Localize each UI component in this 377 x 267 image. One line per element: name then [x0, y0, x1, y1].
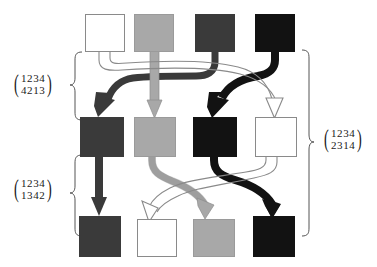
permutation-bottom-row: 4213 — [21, 85, 45, 97]
node-row3-col2[interactable] — [137, 219, 177, 257]
node-row3-col4[interactable] — [253, 216, 295, 257]
arrow-mid2-to-bot3 — [152, 150, 214, 219]
right-paren: ) — [357, 129, 362, 150]
node-row2-col2[interactable] — [134, 117, 176, 157]
brace-right — [302, 50, 314, 236]
permutation-top-row: 1234 — [21, 73, 45, 85]
node-row2-col3[interactable] — [193, 117, 237, 157]
permutation-label-top-left: ( 1234 4213 ) — [12, 73, 54, 96]
permutation-rows: 1234 4213 — [21, 73, 45, 96]
permutation-bottom-row: 2314 — [331, 140, 355, 152]
permutation-top-row: 1234 — [21, 178, 45, 190]
arrow-layer — [0, 0, 377, 267]
left-paren: ( — [14, 179, 19, 200]
node-row2-col4[interactable] — [255, 117, 297, 157]
permutation-label-bottom-left: ( 1234 1342 ) — [12, 178, 54, 201]
arrow-top2-to-mid2 — [147, 48, 162, 118]
right-paren: ) — [47, 179, 52, 200]
permutation-label-right: ( 1234 2314 ) — [322, 128, 364, 151]
node-row3-col3[interactable] — [193, 219, 235, 257]
node-row1-col1[interactable] — [85, 14, 125, 52]
node-row1-col4[interactable] — [255, 14, 295, 52]
left-paren: ( — [14, 74, 19, 95]
node-row1-col3[interactable] — [195, 14, 235, 52]
left-paren: ( — [324, 129, 329, 150]
brace-top-left — [70, 52, 82, 120]
node-row2-col1[interactable] — [80, 117, 124, 157]
node-row1-col2[interactable] — [134, 14, 174, 52]
permutation-rows: 1234 1342 — [21, 178, 45, 201]
arrow-mid1-to-bot1 — [91, 150, 107, 216]
permutation-bottom-row: 1342 — [21, 190, 45, 202]
node-row3-col1[interactable] — [79, 216, 121, 257]
right-paren: ) — [47, 74, 52, 95]
permutation-rows: 1234 2314 — [331, 128, 355, 151]
permutation-top-row: 1234 — [331, 128, 355, 140]
diagram-canvas: ( 1234 4213 ) ( 1234 1342 ) ( 1234 2314 … — [0, 0, 377, 267]
arrow-mid3-to-bot4 — [214, 150, 281, 219]
